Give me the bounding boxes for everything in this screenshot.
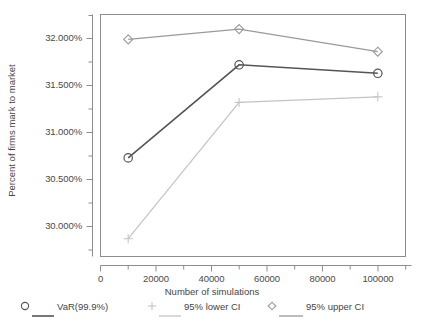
x-tick-label-40000: 40000 bbox=[187, 273, 237, 284]
y-tick-label-32: 32.000% bbox=[22, 32, 82, 43]
series-lower-ci bbox=[124, 92, 383, 243]
legend-label-lower-ci: 95% lower CI bbox=[184, 301, 241, 312]
x-tick-label-60000: 60000 bbox=[242, 273, 292, 284]
series-upper-ci bbox=[124, 25, 383, 57]
y-tick-label-31: 31.000% bbox=[22, 126, 82, 137]
plot-frame bbox=[101, 15, 406, 257]
chart-legend: VaR(99.9%) 95% lower CI bbox=[0, 296, 424, 322]
legend-item-upper-ci[interactable]: 95% upper CI bbox=[265, 296, 364, 316]
diamond-marker-icon bbox=[124, 25, 383, 57]
x-tick-label-0: 0 bbox=[81, 273, 121, 284]
legend-item-var[interactable]: VaR(99.9%) bbox=[18, 296, 108, 316]
x-tick-label-100000: 100000 bbox=[351, 273, 405, 284]
plot-area bbox=[0, 0, 424, 300]
y-tick-label-31-5: 31.500% bbox=[22, 79, 82, 90]
chart-figure: Percent of firms mark to market bbox=[0, 0, 424, 327]
circle-marker-icon bbox=[18, 300, 31, 312]
series-var bbox=[124, 61, 382, 162]
plus-marker-icon bbox=[124, 92, 383, 243]
legend-item-lower-ci[interactable]: 95% lower CI bbox=[145, 296, 241, 316]
legend-label-var: VaR(99.9%) bbox=[57, 301, 108, 312]
x-tick-label-80000: 80000 bbox=[298, 273, 348, 284]
plus-marker-icon bbox=[145, 300, 158, 312]
circle-marker-icon bbox=[124, 61, 382, 162]
legend-label-upper-ci: 95% upper CI bbox=[306, 301, 364, 312]
y-tick-label-30-5: 30.500% bbox=[22, 173, 82, 184]
x-tick-label-20000: 20000 bbox=[131, 273, 181, 284]
diamond-marker-icon bbox=[265, 300, 278, 312]
y-axis-major-ticks bbox=[87, 39, 93, 227]
y-tick-label-30: 30.000% bbox=[22, 220, 82, 231]
